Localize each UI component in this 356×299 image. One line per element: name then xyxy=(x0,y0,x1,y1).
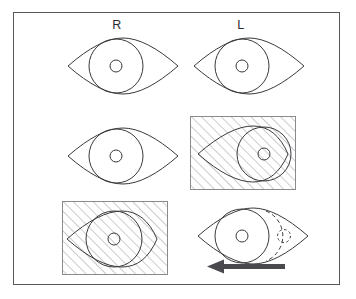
eyelid-lower-icon xyxy=(194,66,304,94)
panel-row2-left-eye-covered xyxy=(190,116,296,190)
eyelid-upper-icon xyxy=(198,208,308,236)
column-label-left: L xyxy=(226,18,256,32)
eyelid-upper-icon xyxy=(194,38,304,66)
panel-row1-right-eye xyxy=(58,34,188,98)
ghost-pupil-icon xyxy=(278,230,291,243)
pupil-icon xyxy=(236,230,248,242)
column-label-right: R xyxy=(102,18,132,32)
arrow-shaft-icon xyxy=(222,264,285,269)
iris-icon xyxy=(89,129,143,183)
eyelid-lower-icon xyxy=(68,66,178,94)
arrow-head-left-icon xyxy=(207,260,224,274)
pupil-icon xyxy=(110,150,122,162)
panel-row2-right-eye xyxy=(58,124,188,188)
iris-icon xyxy=(215,209,269,263)
pupil-icon xyxy=(236,60,248,72)
eyelid-lower-icon xyxy=(68,156,178,184)
pupil-icon xyxy=(110,60,122,72)
eyelid-upper-icon xyxy=(68,128,178,156)
occluder-patch-icon xyxy=(63,202,168,275)
eyelid-upper-icon xyxy=(68,38,178,66)
panel-row1-left-eye xyxy=(184,34,314,98)
figure-root: R L xyxy=(0,0,356,299)
iris-icon xyxy=(215,39,269,93)
iris-icon xyxy=(89,39,143,93)
refixation-arrow xyxy=(205,258,295,276)
panel-row3-right-eye-covered xyxy=(62,201,168,275)
